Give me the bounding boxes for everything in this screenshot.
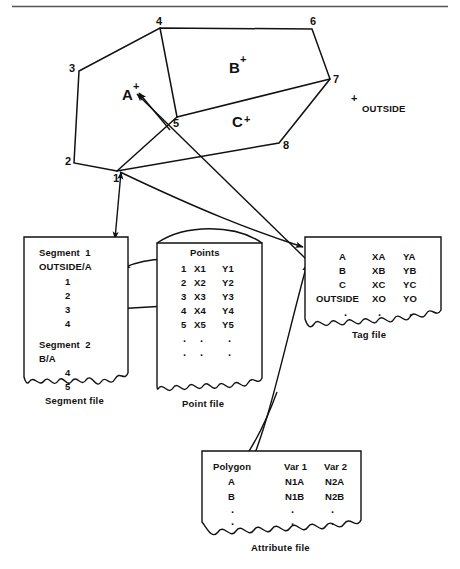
tag-row-2-x: XB: [372, 266, 385, 276]
tag-cont-row-name: .: [344, 307, 347, 318]
map-vertex-6: 6: [310, 16, 316, 27]
outer-boundary: [74, 28, 330, 171]
tag-row-2-name: B: [339, 266, 346, 276]
attribute-row-2-var1: N1B: [285, 492, 304, 502]
polygon-c-centroid-marker: +: [244, 114, 250, 125]
attribute-cont-row-2-var2: .: [331, 516, 334, 527]
polygon-label-a: A: [122, 87, 133, 102]
segment-block-1-point-3: 3: [65, 305, 70, 315]
map-vertex-2: 2: [65, 156, 71, 167]
map-vertex-7: 7: [333, 74, 339, 85]
polygon-label-c: C: [232, 114, 243, 129]
point-cont-row-1-y: .: [228, 333, 231, 344]
tag-file-caption: Tag file: [352, 330, 386, 340]
point-row-5-x: X5: [194, 320, 206, 330]
attribute-file-caption: Attribute file: [251, 543, 310, 553]
point-row-1-y: Y1: [222, 264, 234, 274]
segment-block-1-relation: OUTSIDE/A: [39, 262, 92, 272]
point-cont-row-2-x: .: [200, 347, 203, 358]
attribute-header-var1: Var 1: [284, 462, 307, 472]
map-vertex-8: 8: [283, 140, 289, 151]
segment-block-1-point-4: 4: [65, 319, 70, 329]
map-polygon-outlines: [74, 28, 330, 171]
tag-row-3-name: C: [339, 280, 346, 290]
tag-row-2-y: YB: [403, 266, 416, 276]
point-row-3-x: X3: [194, 292, 206, 302]
segment-block-2-relation: B/A: [39, 354, 56, 364]
attribute-cont-row-1-var1: .: [291, 504, 294, 515]
attribute-header-polygon: Polygon: [213, 462, 251, 472]
tag-row-1-x: XA: [372, 252, 385, 262]
tag-row-1-name: A: [339, 252, 346, 262]
arrow-map-to-tag-file: [120, 172, 303, 247]
tag-row-4-x: XO: [372, 294, 386, 304]
segment-block-1-title: Segment 1: [39, 248, 91, 258]
point-row-2-x: X2: [194, 278, 206, 288]
point-cont-row-2-id: .: [183, 347, 186, 358]
segment-block-2-point-1: 4: [65, 368, 70, 378]
outside-label: OUTSIDE: [362, 104, 406, 114]
arrow-to-polygon-a-centroid: [139, 93, 170, 130]
point-cont-row-1-x: .: [200, 333, 203, 344]
map-vertex-3: 3: [69, 63, 75, 74]
attribute-row-1-polygon: A: [228, 477, 235, 487]
point-row-1-x: X1: [194, 264, 206, 274]
outside-centroid-marker: +: [351, 93, 357, 104]
segment-4-5: [160, 28, 177, 117]
tag-row-4-y: YO: [403, 294, 417, 304]
point-row-1-id: 1: [181, 264, 186, 274]
map-vertex-1: 1: [113, 173, 119, 184]
attribute-row-2-var2: N2B: [325, 492, 344, 502]
attribute-header-var2: Var 2: [324, 462, 347, 472]
map-vertex-4: 4: [156, 16, 162, 27]
point-row-2-y: Y2: [222, 278, 234, 288]
segment-block-2-title: Segment 2: [39, 340, 91, 350]
point-file-card: [157, 243, 262, 390]
segment-block-1-point-1: 1: [65, 277, 70, 287]
tag-row-4-name: OUTSIDE: [316, 294, 359, 304]
attribute-cont-row-2-var1: .: [291, 516, 294, 527]
point-row-5-id: 5: [181, 320, 186, 330]
segment-5-7: [177, 79, 330, 117]
point-row-4-y: Y4: [222, 306, 234, 316]
tag-row-3-y: YC: [403, 280, 416, 290]
attribute-cont-row-2-polygon: .: [231, 516, 234, 527]
polygon-b-centroid-marker: +: [240, 54, 246, 65]
attribute-cont-row-1-var2: .: [331, 504, 334, 515]
point-row-4-id: 4: [181, 306, 186, 316]
segment-file-caption: Segment file: [45, 396, 104, 406]
point-file-top-curve: [157, 229, 262, 243]
point-file-caption: Point file: [182, 399, 224, 409]
point-row-3-y: Y3: [222, 292, 234, 302]
tag-row-3-x: XC: [372, 280, 385, 290]
segment-block-2-point-2: 5: [65, 382, 70, 392]
segment-block-1-point-2: 2: [65, 291, 70, 301]
point-row-4-x: X4: [194, 306, 206, 316]
point-row-2-id: 2: [181, 278, 186, 288]
arrow-tag-to-polygon-a: [137, 94, 306, 259]
figure-canvas: 1 2 3 4 5 6 7 8 A + B + C + + OUTSIDE Se…: [0, 0, 460, 569]
point-file-header: Points: [190, 248, 220, 258]
tag-cont-row-x: .: [378, 307, 381, 318]
point-cont-row-1-id: .: [183, 333, 186, 344]
polygon-label-b: B: [229, 60, 240, 75]
attribute-cont-row-1-polygon: .: [231, 504, 234, 515]
tag-row-1-y: YA: [403, 252, 416, 262]
point-cont-row-2-y: .: [228, 347, 231, 358]
tag-cont-row-y: .: [409, 307, 412, 318]
map-vertex-5: 5: [173, 118, 179, 129]
polygon-a-centroid-marker: +: [133, 81, 139, 92]
attribute-row-1-var2: N2A: [325, 477, 344, 487]
point-row-5-y: Y5: [222, 320, 234, 330]
point-row-3-id: 3: [181, 292, 186, 302]
attribute-row-1-var1: N1A: [285, 477, 304, 487]
attribute-row-2-polygon: B: [228, 492, 235, 502]
